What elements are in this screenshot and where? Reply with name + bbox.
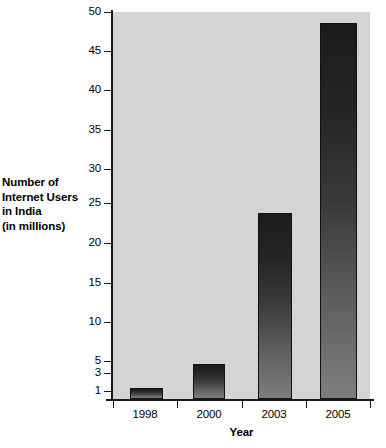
y-tick-3	[104, 373, 113, 374]
y-tick-label-20: 20	[1, 237, 101, 249]
x-tick-start	[113, 400, 114, 408]
y-tick-15	[104, 283, 113, 284]
y-tick-label-3: 3	[1, 367, 101, 379]
y-axis-title-line-1: Number of	[2, 175, 102, 190]
y-tick-30	[104, 169, 113, 170]
y-tick-25	[104, 203, 113, 204]
x-label-2005: 2005	[308, 408, 368, 421]
x-tick-end	[370, 400, 371, 408]
x-label-1998: 1998	[115, 408, 175, 421]
x-label-2000: 2000	[179, 408, 239, 421]
bar-1998	[130, 388, 163, 399]
x-axis-line	[106, 399, 374, 401]
y-tick-label-1: 1	[1, 385, 101, 397]
y-tick-label-45: 45	[1, 45, 101, 57]
x-tick-1	[177, 400, 178, 408]
y-tick-label-15: 15	[1, 277, 101, 289]
bar-chart-figure: Number of Internet Users in India (in mi…	[0, 0, 386, 448]
bar-2005	[320, 23, 357, 399]
y-tick-label-10: 10	[1, 316, 101, 328]
y-tick-35	[104, 130, 113, 131]
y-tick-45	[104, 51, 113, 52]
x-tick-2	[242, 400, 243, 408]
x-tick-3	[306, 400, 307, 408]
bar-2000	[193, 364, 225, 399]
bar-2003	[258, 213, 292, 399]
x-label-2003: 2003	[244, 408, 304, 421]
y-tick-label-30: 30	[1, 163, 101, 175]
y-tick-label-5: 5	[1, 355, 101, 367]
y-tick-label-25: 25	[1, 197, 101, 209]
y-tick-1	[104, 391, 113, 392]
y-tick-40	[104, 90, 113, 91]
y-tick-50	[104, 12, 113, 13]
y-tick-label-50: 50	[1, 6, 101, 18]
y-axis-title-line-4: (in millions)	[2, 219, 102, 234]
y-tick-20	[104, 243, 113, 244]
x-axis-title: Year	[113, 426, 370, 438]
y-tick-label-35: 35	[1, 124, 101, 136]
y-tick-label-40: 40	[1, 84, 101, 96]
y-tick-10	[104, 322, 113, 323]
y-axis-line	[111, 10, 113, 401]
y-tick-5	[104, 361, 113, 362]
